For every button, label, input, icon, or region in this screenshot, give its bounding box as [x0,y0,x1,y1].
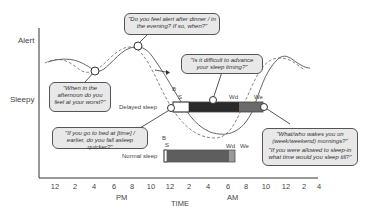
tick-11: 10 [256,182,276,191]
tick-2: 4 [84,182,104,191]
callout-earlier-bed: "If you go to bed at [time] / earlier, d… [52,127,148,149]
delayed-b-label: B [172,86,176,92]
normal-we-label: We [240,143,249,149]
evening-alert-marker [134,42,142,50]
pm-label: PM [116,193,127,202]
normal-weekday-segment [167,150,229,162]
callout-wake: "What/who wakes you on (week/weekend) mo… [262,128,358,166]
tick-8: 4 [198,182,218,191]
tick-9: 6 [218,182,238,191]
tick-7: 2 [179,182,199,191]
tick-10: 8 [236,182,256,191]
am-label: AM [227,193,238,202]
delayed-weekend-segment [239,102,263,112]
tick-12: 12 [276,182,296,191]
tick-5: 10 [141,182,161,191]
callout-afternoon-worst: "When in the afternoon do you feel at yo… [49,82,111,112]
normal-bed-segment [164,150,167,162]
delayed-we-label: We [254,94,263,100]
sleepy-label: Sleepy [10,95,34,104]
tick-4: 8 [122,182,142,191]
normal-b-label: B [162,135,166,141]
normal-s-label: S [165,142,169,148]
time-axis-title: TIME [171,199,189,208]
waketime-marker [261,104,268,111]
delay-arrow-icon [166,70,170,75]
delayed-wd-label: Wd [229,94,238,100]
callout-evening-alert: "Do you feel alert after dinner / in the… [124,13,220,35]
delayed-sleep-label: Delayed sleep [119,104,157,110]
normal-sleep-label: Normal sleep [122,153,157,159]
normal-wd-label: Wd [226,143,235,149]
tick-1: 2 [65,182,85,191]
tick-6: 12 [160,182,180,191]
delayed-s-label: S [178,94,182,100]
tick-0: 12 [45,182,65,191]
bedtime-marker [168,105,175,112]
tick-3: 6 [104,182,124,191]
delayed-bed-segment [173,102,189,112]
advance-timing-marker [210,97,217,104]
tick-14: 4 [309,182,329,191]
normal-weekend-segment [229,150,235,162]
callout-advance-sleep: "Is it difficult to advance your sleep t… [181,54,263,74]
alert-label: Alert [18,36,34,45]
afternoon-dip-marker [91,67,99,75]
